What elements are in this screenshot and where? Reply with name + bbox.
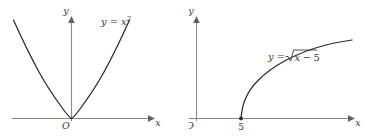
parabola-x-axis-label: x: [155, 117, 161, 128]
parabola-eq-lhs: y: [100, 16, 107, 27]
parabola-plot-panel: y x O y=x2: [0, 0, 189, 138]
sqrt-eq-radicand-num: 5: [314, 52, 320, 63]
sqrt-x-tick-5-label: 5: [238, 122, 244, 132]
sqrt-y-axis-label: y: [189, 5, 194, 16]
parabola-equation-label: y=x2: [100, 15, 131, 27]
svg-text:y=x2: y=x2: [100, 15, 131, 27]
square-root-plot-panel: y x O 5 y= x−5: [189, 0, 377, 138]
sqrt-eq-equals: =: [277, 51, 285, 62]
sqrt-svg: y x O 5 y= x−5: [189, 0, 377, 138]
parabola-y-axis-arrowhead: [68, 16, 74, 23]
sqrt-origin-label: O: [189, 120, 194, 131]
sqrt-eq-lhs: y: [267, 51, 274, 62]
sqrt-radical-symbol-icon: [286, 50, 318, 61]
sqrt-y-axis-arrowhead: [193, 16, 199, 23]
parabola-y-axis-label: y: [62, 5, 69, 16]
sqrt-x-axis-arrowhead: [348, 115, 355, 121]
parabola-origin-label: O: [62, 120, 70, 131]
parabola-eq-equals: =: [110, 16, 118, 27]
parabola-x-axis-arrowhead: [148, 115, 155, 121]
sqrt-x-axis-label: x: [355, 117, 361, 128]
sqrt-eq-radicand-var: x: [295, 52, 301, 63]
sqrt-eq-minus: −: [303, 52, 311, 63]
svg-text:y=: y=: [267, 51, 285, 62]
math-figure-container: y x O y=x2 y x O: [0, 0, 377, 138]
parabola-svg: y x O y=x2: [0, 0, 189, 138]
parabola-eq-exponent: 2: [126, 15, 131, 23]
sqrt-curve-endpoint-dot: [239, 117, 243, 121]
svg-text:x−5: x−5: [295, 52, 320, 63]
